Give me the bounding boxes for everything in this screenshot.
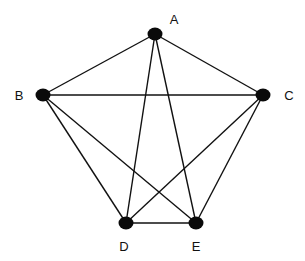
- node-a: [148, 28, 163, 41]
- node-e: [189, 217, 204, 230]
- labels-group: ABCDE: [15, 12, 294, 254]
- node-d: [119, 217, 134, 230]
- edge-a-b: [43, 34, 155, 95]
- node-label-e: E: [192, 239, 201, 254]
- edge-a-c: [155, 34, 263, 95]
- nodes-group: [36, 28, 271, 230]
- node-label-a: A: [170, 12, 179, 27]
- node-label-c: C: [284, 88, 293, 103]
- edges-group: [43, 34, 263, 223]
- node-b: [36, 89, 51, 102]
- edge-c-d: [126, 95, 263, 223]
- complete-graph-k5: ABCDE: [0, 0, 305, 261]
- edge-b-d: [43, 95, 126, 223]
- edge-c-e: [196, 95, 263, 223]
- edge-a-d: [126, 34, 155, 223]
- node-label-b: B: [15, 88, 24, 103]
- node-label-d: D: [119, 239, 128, 254]
- node-c: [256, 89, 271, 102]
